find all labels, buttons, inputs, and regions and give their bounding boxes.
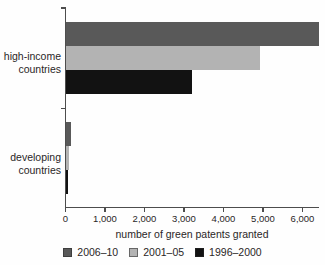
x-tick-label: 1,000: [83, 213, 127, 224]
category-label-high-income: high-income countries: [0, 50, 61, 76]
x-axis-tick: [65, 208, 67, 212]
green-patents-bar-chart: high-income countries developing countri…: [0, 0, 325, 265]
legend-label: 1996–2000: [209, 246, 262, 258]
x-axis-tick: [183, 208, 185, 212]
x-axis-tick: [262, 208, 264, 212]
x-tick-label: 4,000: [202, 213, 246, 224]
category-label-developing: developing countries: [0, 151, 61, 177]
legend-item-0: 2006–10: [63, 246, 118, 258]
bar-series-1-cat-1: [66, 146, 69, 170]
plot-area: [65, 7, 319, 208]
bar-series-1-cat-0: [66, 46, 260, 70]
x-tick-label: 0: [44, 213, 88, 224]
bar-series-2-cat-1: [66, 170, 68, 194]
x-axis-tick: [223, 208, 225, 212]
x-tick-label: 6,000: [281, 213, 325, 224]
x-axis-tick: [104, 208, 106, 212]
legend-label: 2006–10: [77, 246, 118, 258]
y-axis-tick: [61, 7, 66, 9]
legend-swatch-icon: [195, 248, 204, 257]
legend-swatch-icon: [129, 248, 138, 257]
legend-item-2: 1996–2000: [195, 246, 262, 258]
x-axis-tick: [302, 208, 304, 212]
y-axis-tick: [61, 108, 66, 110]
legend: 2006–102001–051996–2000: [0, 244, 325, 260]
bar-series-0-cat-0: [66, 22, 319, 46]
legend-label: 2001–05: [143, 246, 184, 258]
x-tick-label: 3,000: [162, 213, 206, 224]
bar-series-2-cat-0: [66, 70, 192, 94]
legend-swatch-icon: [63, 248, 72, 257]
x-tick-label: 2,000: [123, 213, 167, 224]
x-tick-label: 5,000: [241, 213, 285, 224]
x-axis-tick: [144, 208, 146, 212]
legend-item-1: 2001–05: [129, 246, 184, 258]
x-axis-title: number of green patents granted: [65, 228, 319, 240]
bar-series-0-cat-1: [66, 122, 71, 146]
